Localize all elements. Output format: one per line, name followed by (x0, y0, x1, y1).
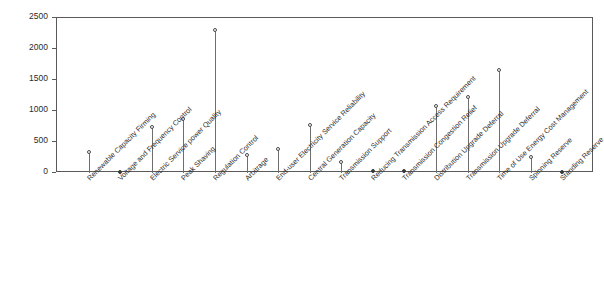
stem-marker[interactable] (150, 125, 154, 129)
y-axis-tick-label: 2500 (29, 11, 48, 21)
stem-marker[interactable] (276, 147, 280, 151)
y-axis-tick-mark (52, 172, 56, 173)
stem-chart-figure: Value ($/kW) 05001000150020002500 Renewa… (0, 0, 604, 296)
stem-marker[interactable] (466, 95, 470, 99)
y-axis-tick: 1500 (0, 79, 56, 80)
y-axis-tick: 0 (0, 172, 56, 173)
plot-area (56, 17, 593, 172)
stem-marker[interactable] (529, 155, 533, 159)
stem-marker[interactable] (213, 28, 217, 32)
y-axis-tick-label: 2000 (29, 42, 48, 52)
y-axis-tick: 1000 (0, 110, 56, 111)
stem-marker[interactable] (497, 68, 501, 72)
y-axis-tick: 2500 (0, 17, 56, 18)
y-axis-tick-label: 500 (34, 135, 48, 145)
stem-marker[interactable] (339, 160, 343, 164)
y-axis-tick: 500 (0, 141, 56, 142)
stem-marker[interactable] (87, 150, 91, 154)
y-axis-tick-label: 1500 (29, 73, 48, 83)
y-axis-tick-label: 0 (43, 166, 48, 176)
y-axis-tick-label: 1000 (29, 104, 48, 114)
stem-marker[interactable] (308, 123, 312, 127)
y-axis-tick: 2000 (0, 48, 56, 49)
stem-line (499, 71, 500, 173)
